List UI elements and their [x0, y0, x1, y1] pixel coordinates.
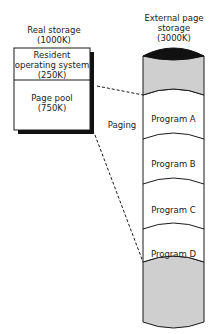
real-storage-title-text: Real storage: [10, 25, 98, 35]
resident-os-size: (250K): [14, 70, 90, 80]
cylinder-top-gray: [143, 56, 204, 95]
cylinder-cap: [143, 48, 204, 60]
page-pool-name: Page pool: [14, 93, 90, 103]
page-pool-size: (750K): [14, 103, 90, 113]
resident-os-region: Resident operating system (250K): [14, 50, 90, 80]
resident-os-line1: Resident: [14, 50, 90, 60]
real-storage-title: Real storage (1000K): [10, 25, 98, 45]
program-c-label: Program C: [143, 205, 204, 215]
cylinder-bottom-gray: [143, 256, 204, 328]
program-a-label: Program A: [143, 114, 204, 124]
real-storage-size: (1000K): [10, 35, 98, 45]
page-pool-region: Page pool (750K): [14, 93, 90, 113]
external-storage-line1: External page: [130, 13, 218, 23]
paging-dashed-line-bottom: [95, 135, 143, 262]
external-storage-line2: storage: [130, 23, 218, 33]
program-d-label: Program D: [143, 249, 204, 259]
paging-dashed-line-top: [97, 86, 143, 95]
program-b-label: Program B: [143, 159, 204, 169]
external-storage-title: External page storage (3000K): [130, 13, 218, 43]
external-storage-size: (3000K): [130, 33, 218, 43]
resident-os-line2: operating system: [14, 60, 90, 70]
paging-label: Paging: [104, 120, 140, 130]
